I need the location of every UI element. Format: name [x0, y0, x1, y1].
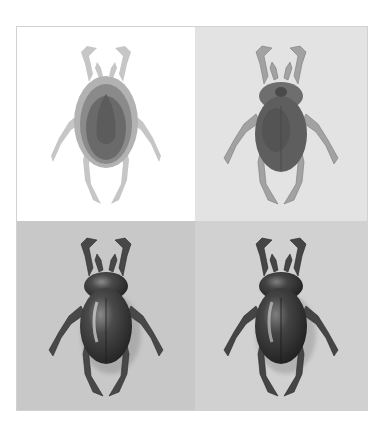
- panel-stage-4: [195, 221, 367, 410]
- beetle-flat-icon: [206, 34, 356, 214]
- beetle-rendered-icon: [31, 226, 181, 406]
- panel-stage-3: [17, 221, 195, 410]
- beetle-render-grid: [16, 26, 368, 411]
- beetle-silhouette-icon: [31, 34, 181, 214]
- panel-stage-1: [17, 27, 195, 221]
- panel-stage-2: [195, 27, 367, 221]
- beetle-final-icon: [206, 226, 356, 406]
